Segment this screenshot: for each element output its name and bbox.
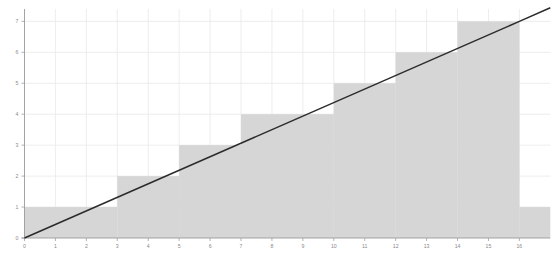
- y-tick-label: 3: [16, 142, 19, 148]
- x-tick-label: 8: [270, 243, 273, 249]
- y-tick-label: 6: [16, 49, 19, 55]
- step-block: [334, 83, 396, 238]
- chart-figure: 012345678910111213141516 01234567: [0, 0, 559, 258]
- y-tick-label: 1: [16, 204, 19, 210]
- y-tick-label: 2: [16, 173, 19, 179]
- x-tick-label: 0: [23, 243, 26, 249]
- x-tick-label: 7: [240, 243, 243, 249]
- x-tick-label: 13: [424, 243, 430, 249]
- y-axis-tick-labels: 01234567: [16, 18, 19, 241]
- x-tick-label: 2: [85, 243, 88, 249]
- x-tick-label: 12: [393, 243, 399, 249]
- x-tick-label: 1: [54, 243, 57, 249]
- step-blocks-group: [25, 21, 551, 238]
- x-tick-label: 16: [516, 243, 522, 249]
- step-function-chart: 012345678910111213141516 01234567: [0, 0, 559, 258]
- x-axis-tick-labels: 012345678910111213141516: [23, 243, 522, 249]
- step-block: [458, 21, 520, 238]
- y-tick-label: 7: [16, 18, 19, 24]
- x-tick-label: 9: [301, 243, 304, 249]
- step-block: [396, 52, 458, 238]
- step-block: [241, 114, 334, 238]
- step-block: [25, 207, 118, 238]
- x-tick-label: 3: [116, 243, 119, 249]
- x-tick-label: 10: [331, 243, 337, 249]
- step-block: [179, 145, 241, 238]
- step-block: [117, 176, 179, 238]
- x-tick-label: 11: [362, 243, 367, 249]
- x-tick-label: 15: [486, 243, 492, 249]
- y-tick-label: 5: [16, 80, 19, 86]
- x-tick-label: 4: [147, 243, 150, 249]
- x-tick-label: 14: [455, 243, 461, 249]
- step-block: [519, 207, 550, 238]
- x-tick-label: 5: [178, 243, 181, 249]
- y-tick-label: 4: [16, 111, 19, 117]
- x-tick-label: 6: [209, 243, 212, 249]
- y-tick-label: 0: [16, 235, 19, 241]
